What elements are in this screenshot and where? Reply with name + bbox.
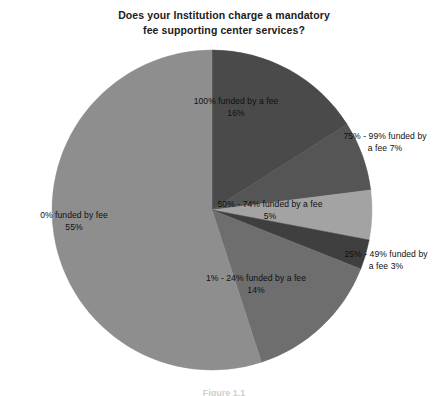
slice-label-25-49-funded-text: 25% - 49% funded by: [330, 248, 442, 260]
slice-label-50-74-funded-percent: 5%: [200, 210, 340, 222]
figure-container: Does your Institution charge a mandatory…: [0, 0, 448, 396]
slice-label-75-99-funded: 75% - 99% funded by a fee 7%: [326, 130, 444, 154]
slice-label-50-74-funded: 50% - 74% funded by a fee 5%: [200, 198, 340, 222]
slice-label-100-funded-percent: 16%: [176, 107, 296, 119]
slice-label-1-24-funded-percent: 14%: [182, 284, 330, 296]
slice-label-1-24-funded: 1% - 24% funded by a fee 14%: [182, 272, 330, 296]
slice-label-1-24-funded-text: 1% - 24% funded by a fee: [182, 272, 330, 284]
slice-label-25-49-funded-percent: a fee 3%: [330, 260, 442, 272]
slice-label-75-99-funded-percent: a fee 7%: [326, 142, 444, 154]
slice-label-0-funded-percent: 55%: [8, 221, 140, 233]
slice-label-0-funded: 0% funded by fee 55%: [8, 209, 140, 233]
slice-label-100-funded-text: 100% funded by a fee: [176, 95, 296, 107]
slice-label-75-99-funded-text: 75% - 99% funded by: [326, 130, 444, 142]
figure-caption: Figure 1.1: [0, 388, 448, 396]
slice-label-100-funded: 100% funded by a fee 16%: [176, 95, 296, 119]
slice-label-25-49-funded: 25% - 49% funded by a fee 3%: [330, 248, 442, 272]
slice-label-0-funded-text: 0% funded by fee: [8, 209, 140, 221]
slice-label-50-74-funded-text: 50% - 74% funded by a fee: [200, 198, 340, 210]
